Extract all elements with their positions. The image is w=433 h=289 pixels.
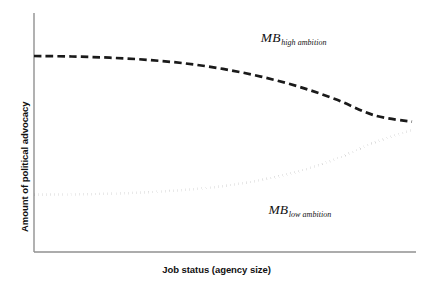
series-label-low-ambition: MBlow ambition <box>268 201 331 217</box>
chart-figure: Amount of political advocacy Job status … <box>0 0 433 289</box>
series-label-low-subscript: low ambition <box>289 210 332 219</box>
series-line-low-ambition <box>34 130 412 195</box>
series-label-high-ambition: MBhigh ambition <box>261 29 326 45</box>
series-label-high-subscript: high ambition <box>281 38 326 47</box>
y-axis-label: Amount of political advocacy <box>20 101 30 232</box>
chart-plot-area <box>0 0 433 289</box>
series-label-high-base: MB <box>261 30 281 45</box>
series-line-high-ambition <box>34 56 412 122</box>
x-axis-label: Job status (agency size) <box>0 265 433 275</box>
series-label-low-base: MB <box>268 202 288 217</box>
